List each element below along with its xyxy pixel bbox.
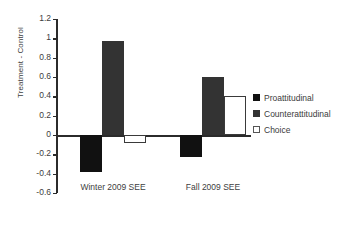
legend-swatch-icon-proattitudinal <box>253 94 260 101</box>
plot-area: 1.210.80.60.40.20-0.2-0.4-0.6 <box>56 19 238 193</box>
y-axis-tick-mark <box>53 96 57 97</box>
legend-item-choice: Choice <box>253 124 359 135</box>
y-axis-tick-mark <box>53 174 57 175</box>
y-axis-tick-label: 1.2 <box>11 13 51 23</box>
legend-swatch-icon-choice <box>253 126 260 133</box>
bar-proattitudinal-1 <box>80 135 102 172</box>
y-axis-tick-label: -0.6 <box>11 187 51 197</box>
y-axis-tick-mark <box>53 58 57 59</box>
y-axis-line <box>56 19 58 193</box>
y-axis-tick-label: 0 <box>11 129 51 139</box>
y-axis-tick-label: 0.8 <box>11 52 51 62</box>
y-axis-tick-mark <box>53 193 57 194</box>
bar-counterattitudinal-2 <box>202 77 224 135</box>
x-axis-category-label: Fall 2009 SEE <box>186 182 240 192</box>
y-axis-tick-mark <box>53 154 57 155</box>
legend-label-counterattitudinal: Counterattitudinal <box>264 109 331 119</box>
bar-counterattitudinal-1 <box>102 41 124 135</box>
bar-choice-1 <box>124 135 146 143</box>
y-axis-tick-label: -0.2 <box>11 148 51 158</box>
y-axis-tick-mark <box>53 135 57 136</box>
chart-legend: Proattitudinal Counterattitudinal Choice <box>253 92 359 140</box>
y-axis-tick-mark <box>53 77 57 78</box>
legend-swatch-icon-counterattitudinal <box>253 110 260 117</box>
bar-chart: Treatment - Control 1.210.80.60.40.20-0.… <box>0 0 361 230</box>
bar-choice-2 <box>224 96 246 135</box>
y-axis-tick-label: 0.6 <box>11 71 51 81</box>
y-axis-tick-mark <box>53 116 57 117</box>
legend-item-proattitudinal: Proattitudinal <box>253 92 359 103</box>
y-axis-tick-label: 0.4 <box>11 90 51 100</box>
bar-proattitudinal-2 <box>180 135 202 157</box>
y-axis-tick-mark <box>53 19 57 20</box>
legend-label-proattitudinal: Proattitudinal <box>264 93 314 103</box>
y-axis-tick-label: 0.2 <box>11 110 51 120</box>
x-axis-category-label: Winter 2009 SEE <box>80 182 145 192</box>
y-axis-tick-label: 1 <box>11 32 51 42</box>
legend-label-choice: Choice <box>264 125 290 135</box>
y-axis-tick-mark <box>53 38 57 39</box>
legend-item-counterattitudinal: Counterattitudinal <box>253 108 359 119</box>
y-axis-tick-label: -0.4 <box>11 168 51 178</box>
